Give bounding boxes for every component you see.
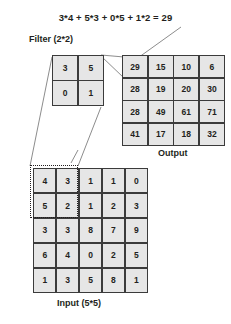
output-label: Output [158, 148, 188, 158]
output-cell: 10 [174, 56, 198, 77]
output-cell: 49 [149, 101, 173, 122]
input-label: Input (5*5) [57, 298, 101, 308]
output-cell: 41 [123, 124, 147, 145]
input-cell: 5 [126, 244, 147, 267]
output-cell: 15 [149, 56, 173, 77]
connector-filter-to-output-top [101, 55, 124, 57]
output-cell: 32 [200, 124, 224, 145]
receptive-field-selection [30, 165, 78, 218]
input-cell: 8 [80, 219, 101, 242]
output-cell: 61 [174, 101, 198, 122]
filter-cell: 0 [53, 81, 77, 105]
input-cell: 9 [126, 219, 147, 242]
connector-filter-to-selection-right [78, 107, 101, 166]
input-cell: 2 [103, 194, 124, 217]
output-cell: 6 [200, 56, 224, 77]
input-cell: 6 [34, 244, 55, 267]
filter-label: Filter (2*2) [29, 34, 73, 44]
input-cell: 3 [126, 194, 147, 217]
input-cell: 3 [57, 219, 78, 242]
input-cell: 8 [103, 269, 124, 292]
input-cell: 7 [103, 219, 124, 242]
filter-cell: 3 [53, 56, 77, 80]
output-grid: 2915106281920302849617141171832 [122, 55, 225, 146]
connector-filter-to-selection-left [30, 57, 52, 166]
input-cell: 1 [80, 169, 101, 192]
output-cell: 18 [174, 124, 198, 145]
output-cell: 28 [123, 101, 147, 122]
convolution-diagram: 3*4 + 5*3 + 0*5 + 1*2 = 29 Filter (2*2) … [0, 0, 231, 324]
output-cell: 28 [123, 79, 147, 100]
output-cell: 71 [200, 101, 224, 122]
filter-grid: 3501 [52, 55, 104, 106]
input-cell: 3 [57, 269, 78, 292]
input-cell: 0 [80, 244, 101, 267]
output-cell: 29 [123, 56, 147, 77]
filter-cell: 1 [79, 81, 103, 105]
input-cell: 1 [80, 194, 101, 217]
output-cell: 17 [149, 124, 173, 145]
input-cell: 2 [103, 244, 124, 267]
input-cell: 5 [80, 269, 101, 292]
input-cell: 1 [34, 269, 55, 292]
input-cell: 1 [126, 269, 147, 292]
output-cell: 19 [149, 79, 173, 100]
input-cell: 3 [34, 219, 55, 242]
filter-cell: 5 [79, 56, 103, 80]
connector-filter-to-output-bottom [101, 56, 124, 78]
input-cell: 4 [57, 244, 78, 267]
convolution-formula: 3*4 + 5*3 + 0*5 + 1*2 = 29 [0, 12, 231, 23]
output-cell: 30 [200, 79, 224, 100]
connector-selection-to-output-pointer [71, 150, 78, 163]
input-cell: 1 [103, 169, 124, 192]
input-cell: 0 [126, 169, 147, 192]
output-cell: 20 [174, 79, 198, 100]
